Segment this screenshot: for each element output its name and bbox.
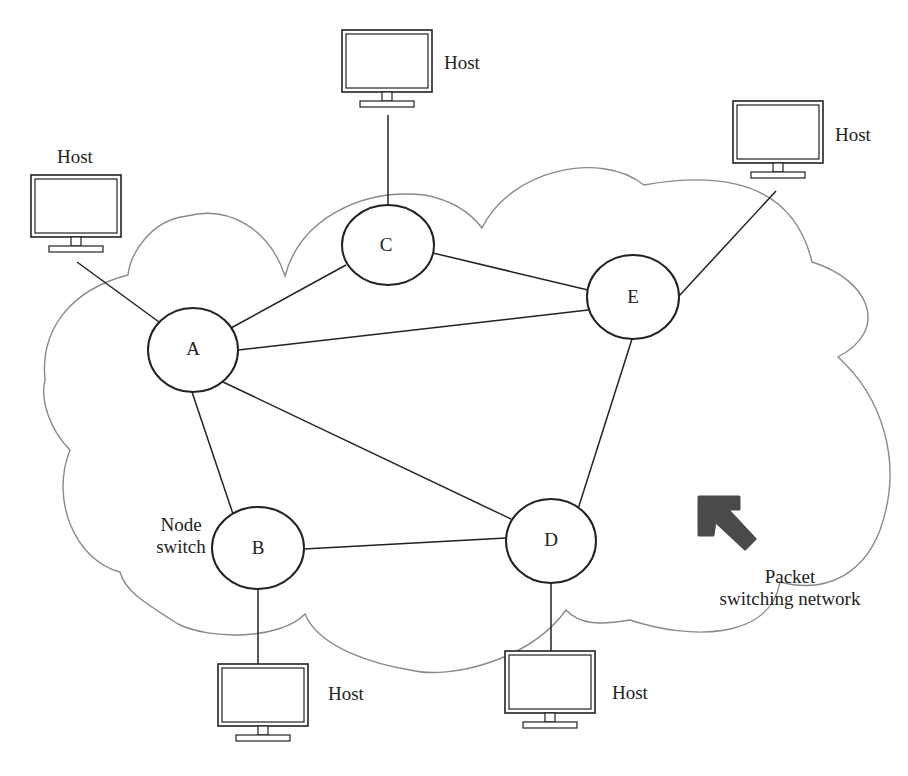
node-label-c: C [366,234,406,256]
link-a-e [238,310,588,350]
link-a-b [192,392,233,514]
monitor-icon-host-bottom-left[interactable] [218,664,308,741]
link-e-d [578,339,632,509]
monitor-icon-host-right[interactable] [733,101,823,178]
host-label-top: Host [444,52,480,74]
monitor-icon-host-top[interactable] [342,30,432,107]
link-a-c [231,265,346,328]
monitor-icon-host-left[interactable] [31,175,121,252]
host-label-bottom-right: Host [612,682,648,704]
link-b-d [304,538,506,549]
node-switch-label: Node switch [143,514,219,558]
link-host-right-e [679,191,776,296]
network-label-line1: Packet [700,566,880,588]
node-label-e: E [613,286,653,308]
link-a-d [223,382,511,519]
node-label-b: B [238,537,278,559]
link-host-left-a [77,262,159,322]
host-label-right: Host [835,124,871,146]
host-label-bottom-left: Host [328,683,364,705]
link-c-e [433,253,588,290]
switch-nodes [148,205,679,589]
node-switch-label-line2: switch [143,536,219,558]
packet-switching-network-label: Packet switching network [700,566,880,610]
host-label-left: Host [57,146,93,168]
arrow-up-left-icon [699,497,755,549]
node-label-a: A [173,338,213,360]
node-label-d: D [531,529,571,551]
node-switch-label-line1: Node [143,514,219,536]
network-diagram [0,0,908,776]
monitor-icon-host-bottom-right[interactable] [505,651,595,728]
network-label-line2: switching network [700,588,880,610]
